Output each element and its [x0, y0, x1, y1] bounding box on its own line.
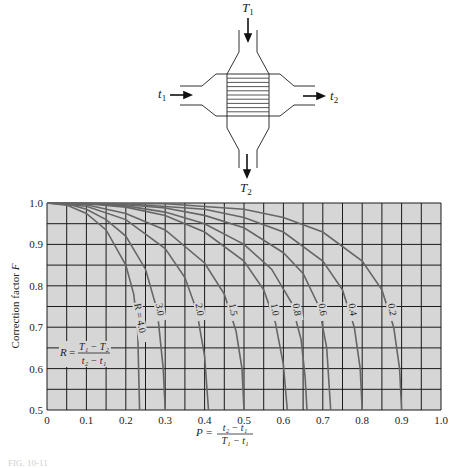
- figure: T1 T2 t1 t2 R = 4.03.02.01.51.00.80.60.4…: [0, 0, 458, 468]
- svg-text:t₂ − t₁: t₂ − t₁: [223, 422, 247, 433]
- y-tick-label: 0.5: [29, 404, 43, 416]
- svg-text:0.4: 0.4: [347, 302, 360, 316]
- left-pipe-bottom: [180, 105, 227, 116]
- cold-outlet-label: t2: [330, 88, 338, 105]
- y-tick-label: 0.6: [29, 363, 43, 375]
- y-tick-label: 1.0: [29, 197, 43, 209]
- svg-text:1.0: 1.0: [269, 302, 282, 316]
- correction-factor-chart: R = 4.03.02.01.51.00.80.60.40.2 00.10.20…: [9, 197, 448, 446]
- svg-text:R: R: [59, 346, 67, 358]
- svg-text:P: P: [195, 426, 203, 438]
- svg-text:2.0: 2.0: [194, 302, 207, 316]
- svg-text:=: =: [69, 346, 75, 358]
- bottom-pipe-left: [227, 116, 239, 168]
- tube-lines: [227, 78, 269, 112]
- svg-text:0.8: 0.8: [291, 302, 304, 316]
- x-tick-label: 0.2: [119, 414, 133, 426]
- heat-exchanger-diagram: [180, 30, 315, 168]
- svg-text:T₁ − t₁: T₁ − t₁: [221, 435, 248, 446]
- svg-text:0.2: 0.2: [386, 302, 399, 316]
- hot-inlet-label: T1: [242, 0, 254, 17]
- hot-outlet-label: T2: [240, 180, 252, 197]
- x-tick-label: 1.0: [434, 414, 448, 426]
- right-pipe-top: [269, 74, 315, 86]
- figure-caption: FIG. 10-11: [8, 458, 48, 468]
- svg-text:=: =: [206, 426, 212, 438]
- arrow-down-icon: [245, 34, 251, 41]
- bottom-pipe-right: [257, 116, 269, 168]
- svg-text:0.6: 0.6: [317, 302, 330, 316]
- arrow-down-icon: [244, 170, 250, 177]
- right-pipe-bottom: [269, 105, 315, 116]
- top-pipe-right: [257, 30, 269, 74]
- x-tick-label: 0.9: [395, 414, 409, 426]
- svg-text:T₁ − T₂: T₁ − T₂: [79, 341, 109, 352]
- x-tick-label: 0: [44, 414, 50, 426]
- arrow-right-icon: [317, 93, 324, 99]
- y-tick-label: 0.9: [29, 238, 43, 250]
- svg-text:1.5: 1.5: [227, 302, 240, 316]
- x-tick-label: 0.7: [316, 414, 330, 426]
- x-tick-label: 0.6: [277, 414, 291, 426]
- arrow-right-icon: [184, 92, 191, 98]
- y-tick-label: 0.7: [29, 321, 43, 333]
- x-tick-label: 0.3: [158, 414, 172, 426]
- top-pipe-left: [227, 30, 239, 74]
- x-tick-label: 0.1: [80, 414, 94, 426]
- y-tick-label: 0.8: [29, 280, 43, 292]
- x-tick-label: 0.4: [198, 414, 212, 426]
- flow-arrows: [170, 18, 324, 177]
- grid-lines: [47, 203, 441, 410]
- x-tick-label: 0.8: [355, 414, 369, 426]
- r-formula: R = T₁ − T₂ t₂ − t₁: [59, 341, 111, 367]
- svg-text:t₂ − t₁: t₂ − t₁: [82, 355, 106, 366]
- y-axis-label: Correction factor F: [9, 263, 21, 348]
- svg-text:3.0: 3.0: [154, 302, 167, 316]
- cold-inlet-label: t1: [158, 86, 166, 103]
- left-pipe-top: [180, 74, 227, 86]
- y-axis-ticks: 0.50.60.70.80.91.0: [29, 197, 43, 416]
